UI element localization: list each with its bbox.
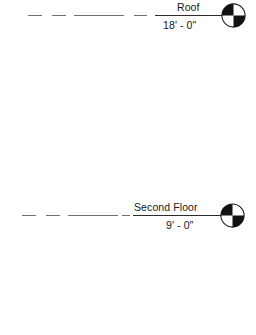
lead-line-dash-3 [74,15,124,16]
datum-rule-second-floor [133,215,216,216]
lead-line-dash-1 [22,215,36,216]
drawing-canvas: Roof 18' - 0" Second Floor 9' - 0" [0,0,256,335]
level-name-roof: Roof [177,2,200,13]
level-datum-second-floor[interactable]: Second Floor 9' - 0" [0,201,256,245]
level-elevation-roof: 18' - 0" [163,20,196,31]
lead-line-dash-2 [52,15,66,16]
datum-rule-roof [155,15,221,16]
lead-line-dash-2 [46,215,60,216]
level-elevation-second-floor: 9' - 0" [166,220,193,231]
lead-line-dash-4 [122,215,130,216]
level-name-second-floor: Second Floor [134,202,198,213]
lead-line-dash-1 [28,15,42,16]
level-head-icon-roof[interactable] [221,3,246,28]
lead-line-dash-4 [134,15,147,16]
lead-line-dash-3 [68,215,118,216]
level-datum-roof[interactable]: Roof 18' - 0" [0,1,256,45]
level-head-icon-second-floor[interactable] [220,203,245,228]
